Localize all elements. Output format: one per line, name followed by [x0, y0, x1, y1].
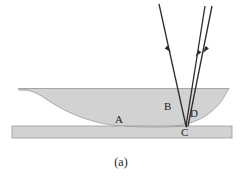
- figure-caption: (a): [0, 155, 242, 170]
- figure-container: A B C D (a): [0, 0, 242, 179]
- reflected-ray-inner-arrow-icon: [196, 50, 202, 57]
- optics-diagram: [0, 0, 242, 179]
- flat-glass-plate: [12, 126, 232, 138]
- point-label-c: C: [181, 127, 188, 138]
- incident-ray-arrow-icon: [165, 46, 171, 53]
- point-label-a: A: [115, 114, 123, 125]
- point-label-b: B: [164, 101, 171, 112]
- point-label-d: D: [190, 108, 198, 119]
